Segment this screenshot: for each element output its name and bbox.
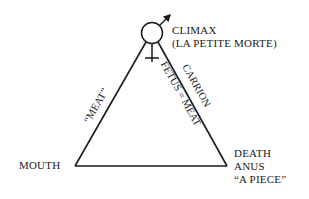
death-label: DEATH ANUS “A PIECE” <box>234 147 286 186</box>
death-line2: ANUS <box>234 160 286 173</box>
left-edge-line <box>75 42 146 166</box>
climax-line1: CLIMAX <box>172 24 277 37</box>
climax-line2: (LA PETITE MORTE) <box>172 37 277 50</box>
climax-label: CLIMAX (LA PETITE MORTE) <box>172 24 277 50</box>
death-line1: DEATH <box>234 147 286 160</box>
death-line3: “A PIECE” <box>234 173 286 186</box>
mouth-label: MOUTH <box>19 159 60 172</box>
venus-mars-icon <box>142 14 172 62</box>
